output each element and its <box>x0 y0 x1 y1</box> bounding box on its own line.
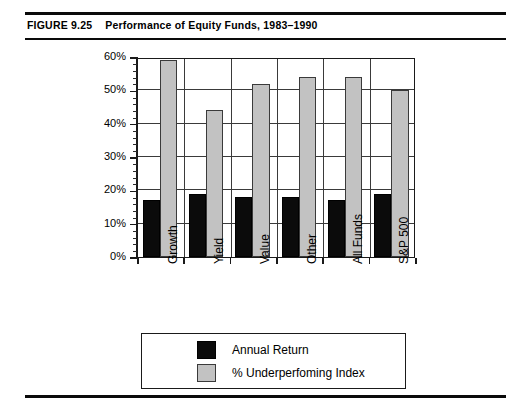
y-axis-minor-tick <box>133 178 137 179</box>
gridline-vertical <box>231 59 232 257</box>
y-axis-minor-tick <box>133 171 137 172</box>
legend-label-annual-return: Annual Return <box>232 343 309 357</box>
legend-label-underperforming-index: % Underperfoming Index <box>232 366 365 380</box>
figure-title: Performance of Equity Funds, 1983–1990 <box>105 19 317 31</box>
y-axis-label: 40% <box>84 117 126 129</box>
x-axis-tick <box>183 258 185 264</box>
x-axis-label-value: Value <box>258 234 272 264</box>
x-axis-label-s-p-500: S&P 500 <box>397 217 411 264</box>
y-axis-minor-tick <box>133 238 137 239</box>
x-axis-label-yield: Yield <box>212 238 226 264</box>
y-axis-minor-tick <box>133 98 137 99</box>
y-axis-minor-tick <box>133 218 137 219</box>
chart-legend: Annual Return % Underperfoming Index <box>141 333 406 389</box>
y-axis-tick <box>130 224 137 226</box>
x-axis-tick <box>276 258 278 264</box>
gridline-vertical <box>370 59 371 257</box>
x-axis-label-other: Other <box>305 234 319 264</box>
gridline-horizontal <box>138 123 414 124</box>
legend-item-annual-return: Annual Return <box>197 339 309 361</box>
legend-swatch-annual-return <box>197 341 216 359</box>
x-axis-label-growth: Growth <box>166 225 180 264</box>
y-axis-tick <box>130 57 137 59</box>
y-axis-minor-tick <box>133 184 137 185</box>
legend-item-underperforming-index: % Underperfoming Index <box>197 362 365 384</box>
y-axis-label: 30% <box>84 150 126 162</box>
y-axis-tick <box>130 257 137 259</box>
gridline-horizontal <box>138 189 414 190</box>
figure-caption: FIGURE 9.25Performance of Equity Funds, … <box>27 19 318 31</box>
bar-other-underperforming-index <box>299 77 316 257</box>
y-axis-label: 50% <box>84 83 126 95</box>
y-axis-minor-tick <box>133 138 137 139</box>
y-axis-label: 60% <box>84 50 126 62</box>
y-axis-minor-tick <box>133 64 137 65</box>
y-axis-minor-tick <box>133 104 137 105</box>
gridline-vertical <box>184 59 185 257</box>
legend-swatch-underperforming-index <box>197 364 216 382</box>
y-axis-tick <box>130 191 137 193</box>
y-axis-minor-tick <box>133 164 137 165</box>
y-axis-label: 0% <box>84 250 126 262</box>
bar-yield-underperforming-index <box>206 110 223 257</box>
bar-s-p-500-annual-return <box>374 194 391 257</box>
gridline-horizontal <box>138 156 414 157</box>
gridline-horizontal <box>138 223 414 224</box>
y-axis-minor-tick <box>133 198 137 199</box>
figure-bottom-rule <box>25 395 506 398</box>
figure-number: FIGURE 9.25 <box>27 19 92 31</box>
figure-top-rule <box>25 12 506 15</box>
y-axis-minor-tick <box>133 204 137 205</box>
y-axis-minor-tick <box>133 244 137 245</box>
y-axis-tick <box>130 91 137 93</box>
bar-value-underperforming-index <box>252 84 269 257</box>
gridline-vertical <box>323 59 324 257</box>
y-axis-minor-tick <box>133 251 137 252</box>
bar-growth-annual-return <box>143 200 160 257</box>
y-axis-minor-tick <box>133 78 137 79</box>
bar-value-annual-return <box>235 197 252 257</box>
x-axis-tick <box>230 258 232 264</box>
y-axis-minor-tick <box>133 231 137 232</box>
y-axis-minor-tick <box>133 118 137 119</box>
y-axis-minor-tick <box>133 111 137 112</box>
y-axis-minor-tick <box>133 211 137 212</box>
bar-all-funds-annual-return <box>328 200 345 257</box>
bar-other-annual-return <box>282 197 299 257</box>
x-axis-tick <box>415 258 417 264</box>
y-axis-minor-tick <box>133 151 137 152</box>
y-axis-minor-tick <box>133 131 137 132</box>
y-axis-tick <box>130 124 137 126</box>
y-axis-minor-tick <box>133 144 137 145</box>
bar-yield-annual-return <box>189 194 206 257</box>
gridline-vertical <box>277 59 278 257</box>
y-axis-minor-tick <box>133 71 137 72</box>
x-axis-tick <box>369 258 371 264</box>
y-axis-minor-tick <box>133 84 137 85</box>
figure-title-rule <box>25 38 506 40</box>
x-axis-tick <box>137 258 139 264</box>
gridline-horizontal <box>138 89 414 90</box>
y-axis-label: 20% <box>84 183 126 195</box>
y-axis-tick <box>130 157 137 159</box>
y-axis-label: 10% <box>84 217 126 229</box>
x-axis-tick <box>322 258 324 264</box>
x-axis-label-all-funds: All Funds <box>351 214 365 264</box>
